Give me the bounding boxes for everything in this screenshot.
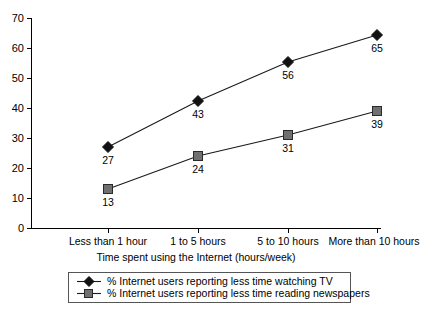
x-axis-title: Time spent using the Internet (hours/wee… (96, 251, 295, 263)
chart-container: 70 60 50 40 30 20 10 0 Less than 1 hour … (0, 0, 422, 314)
data-label-newspapers-2: 31 (282, 142, 294, 154)
legend-label-tv: % Internet users reporting less time wat… (107, 275, 333, 287)
data-label-newspapers-1: 24 (192, 163, 204, 175)
y-tick-label-60: 60 (12, 42, 24, 54)
data-label-tv-1: 43 (192, 108, 204, 120)
y-tick-label-70: 70 (12, 12, 24, 24)
x-tick-label-1: 1 to 5 hours (170, 235, 225, 247)
data-point-newspapers-0 (104, 185, 113, 194)
line-chart: 70 60 50 40 30 20 10 0 Less than 1 hour … (0, 0, 422, 314)
y-tick-label-10: 10 (12, 192, 24, 204)
data-point-newspapers-2 (284, 131, 293, 140)
x-tick-label-0: Less than 1 hour (69, 235, 148, 247)
x-tick-label-3: More than 10 hours (328, 235, 419, 247)
y-tick-label-0: 0 (18, 222, 24, 234)
chart-background (0, 0, 422, 314)
x-tick-label-2: 5 to 10 hours (257, 235, 318, 247)
data-point-newspapers-1 (194, 152, 203, 161)
data-label-newspapers-3: 39 (371, 118, 383, 130)
legend-marker-square-icon (85, 290, 93, 298)
data-label-tv-0: 27 (102, 154, 114, 166)
y-tick-label-30: 30 (12, 132, 24, 144)
y-tick-label-50: 50 (12, 72, 24, 84)
data-point-newspapers-3 (373, 107, 382, 116)
y-tick-label-20: 20 (12, 162, 24, 174)
data-label-tv-2: 56 (282, 69, 294, 81)
data-label-newspapers-0: 13 (102, 196, 114, 208)
chart-legend: % Internet users reporting less time wat… (69, 273, 370, 303)
y-tick-label-40: 40 (12, 102, 24, 114)
data-label-tv-3: 65 (371, 42, 383, 54)
legend-label-newspapers: % Internet users reporting less time rea… (107, 287, 370, 299)
